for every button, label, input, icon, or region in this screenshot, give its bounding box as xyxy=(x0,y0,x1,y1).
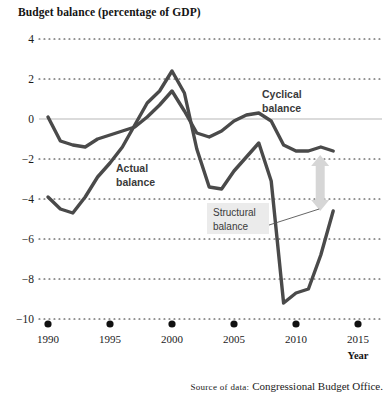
y-axis-tick-label: 0 xyxy=(28,113,34,125)
gridlines-group xyxy=(39,39,382,319)
x-axis-title: Year xyxy=(348,350,369,361)
x-axis-tick-label: 2015 xyxy=(347,333,370,345)
x-axis-tick-label: 2010 xyxy=(285,333,308,345)
structural-balance-label-line2: balance xyxy=(213,221,248,232)
y-axis-tick-labels: 420−2−4−6−8−10 xyxy=(16,33,34,325)
y-axis-tick-label: −8 xyxy=(22,273,34,285)
gap-arrow-head-up xyxy=(311,155,329,166)
x-axis-tick-label: 1990 xyxy=(37,333,60,345)
gap-arrow-head-down xyxy=(311,200,329,211)
x-axis-tick-marker xyxy=(44,320,51,327)
source-note: Source of data: Congressional Budget Off… xyxy=(0,380,383,392)
structural-gap-arrow xyxy=(311,155,329,211)
chart-container: Budget balance (percentage of GDP) 420−2… xyxy=(0,0,391,412)
structural-balance-label: Structural xyxy=(213,207,256,218)
x-axis-tick-marker xyxy=(354,320,361,327)
chart-svg: 420−2−4−6−8−10 199019952000200520102015 … xyxy=(0,0,391,412)
source-prefix: Source of data: xyxy=(190,382,249,392)
actual-balance-label-line2: balance xyxy=(116,176,155,188)
y-axis-tick-label: 2 xyxy=(28,73,34,85)
x-axis-tick-marker xyxy=(168,320,175,327)
x-axis-tick-marker xyxy=(106,320,113,327)
x-axis-tick-label: 2000 xyxy=(161,333,184,345)
y-axis-tick-label: −10 xyxy=(16,313,34,325)
gap-arrow-shaft xyxy=(316,164,325,202)
cyclical-balance-label: Cyclical xyxy=(262,88,302,100)
y-axis-tick-label: −2 xyxy=(22,153,34,165)
x-axis-tick-label: 1995 xyxy=(99,333,122,345)
cyclical-balance-label-line2: balance xyxy=(262,102,301,114)
x-axis-tick-marker xyxy=(230,320,237,327)
x-axis-tick-labels: 199019952000200520102015 xyxy=(37,333,370,345)
y-axis-tick-label: −6 xyxy=(22,233,34,245)
x-axis-tick-markers xyxy=(44,320,361,327)
source-text: Congressional Budget Office. xyxy=(252,380,383,392)
x-axis-tick-label: 2005 xyxy=(223,333,246,345)
y-axis-tick-label: 4 xyxy=(28,33,34,45)
y-axis-tick-label: −4 xyxy=(22,193,34,205)
actual-balance-label: Actual xyxy=(116,162,148,174)
x-axis-tick-marker xyxy=(292,320,299,327)
